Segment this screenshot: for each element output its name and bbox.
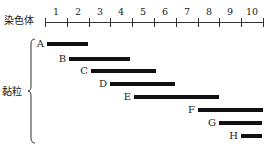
group-label-cosmid: 黏粒 xyxy=(2,86,22,98)
clone-bar xyxy=(219,121,262,125)
axis-segment-number: 2 xyxy=(70,6,86,17)
clone-label: G xyxy=(206,117,216,128)
axis-segment-number: 5 xyxy=(135,6,151,17)
axis-segment-number: 1 xyxy=(48,6,64,17)
axis-segment-number: 9 xyxy=(222,6,238,17)
clone-label: E xyxy=(121,91,131,102)
clone-label: D xyxy=(97,78,107,89)
axis-tick xyxy=(219,18,220,27)
clone-bar xyxy=(134,95,219,99)
axis-tick xyxy=(198,18,199,27)
axis-tick xyxy=(45,18,46,27)
clone-bar xyxy=(110,82,175,86)
left-brace xyxy=(28,38,36,144)
clone-label: F xyxy=(185,104,195,115)
clone-label: A xyxy=(34,38,44,49)
axis-tick xyxy=(67,18,68,27)
axis-tick xyxy=(132,18,133,27)
axis-tick xyxy=(263,18,264,27)
axis-tick xyxy=(241,18,242,27)
clone-label: C xyxy=(78,65,88,76)
clone-bar xyxy=(69,57,130,61)
clone-bar xyxy=(47,42,88,46)
axis-tick xyxy=(89,18,90,27)
clone-bar xyxy=(91,69,156,73)
axis-label-chromosome: 染色体 xyxy=(4,15,34,27)
axis-tick xyxy=(154,18,155,27)
axis-segment-number: 10 xyxy=(244,6,260,17)
clone-label: B xyxy=(56,53,66,64)
axis-tick xyxy=(110,18,111,27)
clone-label: H xyxy=(228,130,238,141)
clone-bar xyxy=(241,134,262,138)
axis-segment-number: 6 xyxy=(157,6,173,17)
axis-segment-number: 7 xyxy=(179,6,195,17)
clone-bar xyxy=(198,108,263,112)
axis-segment-number: 3 xyxy=(92,6,108,17)
axis-segment-number: 4 xyxy=(113,6,129,17)
axis-tick xyxy=(176,18,177,27)
axis-segment-number: 8 xyxy=(201,6,217,17)
